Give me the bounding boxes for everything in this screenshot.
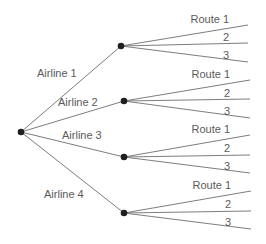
airline-route-tree-diagram: Airline 1Route 123Airline 2Route 123Airl… [0,0,266,244]
airline-4-route-2-edge [124,211,251,213]
airline-3-route-1-label: Route 1 [191,123,230,135]
airline-2-route-2-edge [124,99,250,101]
airline-4-route-1-edge [124,191,251,213]
airline-1-edge [21,46,121,132]
airline-3-route-2-label: 2 [224,142,230,154]
airline-1-route-2-edge [121,43,248,46]
airline-3-route-3-label: 3 [224,160,230,172]
airline-2-route-1-edge [124,80,250,101]
tree-svg: Airline 1Route 123Airline 2Route 123Airl… [0,0,266,244]
airline-3-label: Airline 3 [62,129,102,141]
airline-1-node [118,43,125,50]
airline-2-route-3-label: 3 [224,105,230,117]
airline-1-route-3-label: 3 [223,49,229,61]
airline-2-label: Airline 2 [58,96,98,108]
airline-4-route-1-label: Route 1 [192,179,231,191]
airline-3-route-1-edge [124,135,250,157]
airline-3-node [121,154,128,161]
airline-1-label: Airline 1 [37,67,77,79]
airline-4-route-3-edge [124,213,251,229]
airline-3-route-3-edge [124,157,250,173]
airline-1-route-1-label: Route 1 [190,13,229,25]
airline-4-route-3-label: 3 [225,216,231,228]
airline-4-label: Airline 4 [44,188,84,200]
airline-1-route-2-label: 2 [223,31,229,43]
airline-4-route-2-label: 2 [225,198,231,210]
airline-2-route-2-label: 2 [224,87,230,99]
airline-4-node [121,210,128,217]
root-node [18,129,25,136]
airline-3-route-2-edge [124,155,250,157]
airline-2-route-3-edge [124,101,250,118]
airline-2-node [121,98,128,105]
airline-2-route-1-label: Route 1 [191,68,230,80]
